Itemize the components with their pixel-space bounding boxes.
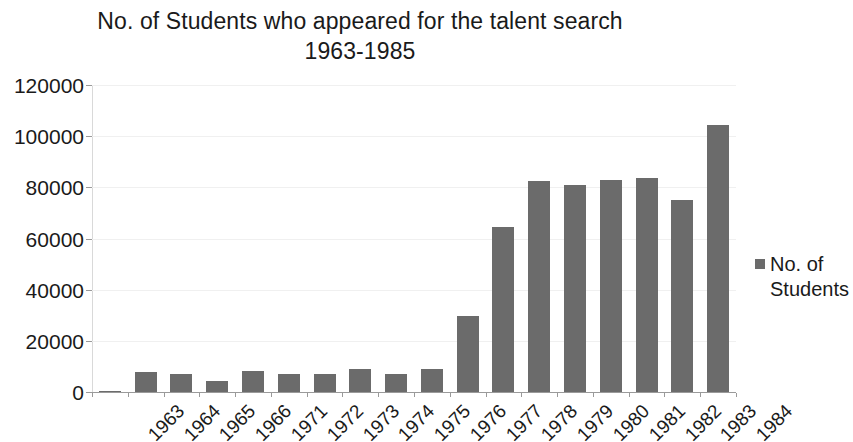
x-axis-tick-label: 1971 bbox=[287, 401, 330, 442]
legend-label: No. of Students bbox=[770, 252, 853, 302]
x-axis-tick-label: 1972 bbox=[323, 401, 366, 442]
bar-slot bbox=[378, 85, 414, 392]
x-axis-tick-label: 1963 bbox=[144, 401, 187, 442]
x-axis-tick-mark bbox=[92, 393, 93, 397]
bar bbox=[671, 200, 693, 392]
x-axis-tick-label: 1966 bbox=[252, 401, 295, 442]
bar-slot bbox=[271, 85, 307, 392]
bar bbox=[242, 371, 264, 392]
bar-slot bbox=[414, 85, 450, 392]
bar-slot bbox=[199, 85, 235, 392]
x-axis-tick-mark bbox=[235, 393, 236, 397]
x-axis-tick-label: 1984 bbox=[752, 401, 795, 442]
y-axis-tick-label: 80000 bbox=[26, 177, 84, 198]
x-axis-tick-mark bbox=[700, 393, 701, 397]
bar-chart: No. of Students who appeared for the tal… bbox=[0, 0, 853, 442]
x-axis-tick-mark bbox=[342, 393, 343, 397]
bar bbox=[600, 180, 622, 392]
bar bbox=[492, 227, 514, 392]
bar bbox=[457, 316, 479, 392]
x-axis-tick-label: 1973 bbox=[359, 401, 402, 442]
x-axis-tick-mark bbox=[629, 393, 630, 397]
bar bbox=[707, 125, 729, 392]
x-axis-tick-label: 1975 bbox=[430, 401, 473, 442]
x-axis-tick-mark bbox=[128, 393, 129, 397]
x-axis-tick-label: 1964 bbox=[180, 401, 223, 442]
bar-slot bbox=[450, 85, 486, 392]
chart-title-line-1: No. of Students who appeared for the tal… bbox=[97, 8, 622, 34]
x-axis-tick-mark bbox=[521, 393, 522, 397]
bar-slot bbox=[521, 85, 557, 392]
bar-slot bbox=[593, 85, 629, 392]
x-axis-tick-mark bbox=[378, 393, 379, 397]
bar-slot bbox=[342, 85, 378, 392]
legend-entry[interactable]: No. of Students bbox=[755, 252, 853, 302]
bar-slot bbox=[235, 85, 271, 392]
chart-title: No. of Students who appeared for the tal… bbox=[0, 6, 720, 66]
x-axis-tick-mark bbox=[164, 393, 165, 397]
x-axis-tick-label: 1981 bbox=[645, 401, 688, 442]
chart-legend: No. of Students bbox=[755, 252, 853, 302]
bar-slot bbox=[700, 85, 736, 392]
x-axis-tick-label: 1982 bbox=[681, 401, 724, 442]
bar bbox=[421, 369, 443, 392]
y-axis-tick-label: 60000 bbox=[26, 228, 84, 249]
x-axis-labels: 1963196419651966197119721973197419751976… bbox=[92, 393, 736, 442]
bar-slot bbox=[92, 85, 128, 392]
bar bbox=[349, 369, 371, 392]
square-marker-icon bbox=[755, 259, 765, 269]
bar-slot bbox=[486, 85, 522, 392]
x-axis-tick-mark bbox=[199, 393, 200, 397]
bar-slot bbox=[307, 85, 343, 392]
bar bbox=[636, 178, 658, 392]
x-axis-tick-label: 1977 bbox=[502, 401, 545, 442]
y-axis-tick-label: 100000 bbox=[14, 126, 84, 147]
chart-title-line-2: 1963-1985 bbox=[0, 36, 720, 66]
bar-slot bbox=[128, 85, 164, 392]
bar bbox=[564, 185, 586, 392]
bar-slot bbox=[557, 85, 593, 392]
bar-slot bbox=[164, 85, 200, 392]
bar bbox=[135, 372, 157, 392]
bar bbox=[385, 374, 407, 392]
bar-slot bbox=[664, 85, 700, 392]
y-axis-tick-label: 20000 bbox=[26, 330, 84, 351]
x-axis-tick-mark bbox=[557, 393, 558, 397]
x-axis-tick-mark bbox=[486, 393, 487, 397]
y-axis-labels: 120000100000800006000040000200000 bbox=[0, 85, 84, 392]
y-axis-tick-label: 0 bbox=[72, 382, 84, 403]
y-axis-tick-label: 120000 bbox=[14, 75, 84, 96]
bar bbox=[206, 381, 228, 392]
x-axis-tick-label: 1980 bbox=[609, 401, 652, 442]
x-axis-tick-mark bbox=[414, 393, 415, 397]
x-axis-tick-mark bbox=[664, 393, 665, 397]
x-axis-tick-mark bbox=[271, 393, 272, 397]
bar bbox=[278, 374, 300, 392]
x-axis-tick-label: 1979 bbox=[574, 401, 617, 442]
x-axis-tick-mark bbox=[450, 393, 451, 397]
bars-container bbox=[92, 85, 736, 392]
x-axis-tick-label: 1974 bbox=[395, 401, 438, 442]
bar bbox=[99, 391, 121, 392]
x-axis-tick-label: 1976 bbox=[466, 401, 509, 442]
bar bbox=[528, 181, 550, 392]
bar bbox=[314, 374, 336, 392]
x-axis-tick-label: 1965 bbox=[216, 401, 259, 442]
y-axis-tick-label: 40000 bbox=[26, 279, 84, 300]
x-axis-tick-mark bbox=[307, 393, 308, 397]
x-axis-tick-label: 1983 bbox=[717, 401, 760, 442]
x-axis-tick-mark bbox=[736, 393, 737, 397]
x-axis-tick-label: 1978 bbox=[538, 401, 581, 442]
bar bbox=[170, 374, 192, 392]
bar-slot bbox=[629, 85, 665, 392]
x-axis-tick-mark bbox=[593, 393, 594, 397]
